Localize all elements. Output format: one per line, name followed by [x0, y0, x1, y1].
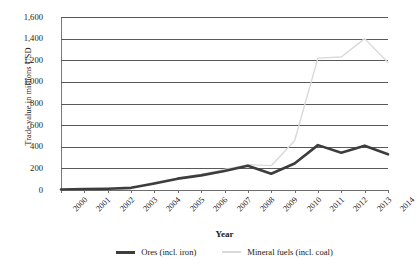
- x-tick-label: 2008: [259, 196, 277, 214]
- y-tick-label: 0: [3, 186, 43, 195]
- x-tick-label: 2003: [142, 196, 160, 214]
- x-tick-label: 2014: [399, 196, 417, 214]
- x-tick-label: 2007: [235, 196, 253, 214]
- series-lines: [61, 17, 388, 190]
- x-tick-mark: [178, 190, 179, 193]
- y-tick-label: 1,400: [3, 34, 43, 43]
- y-tick-label: 200: [3, 164, 43, 173]
- x-tick-mark: [108, 190, 109, 193]
- x-tick-mark: [365, 190, 366, 193]
- x-tick-label: 2000: [72, 196, 90, 214]
- y-tick-label: 1,200: [3, 56, 43, 65]
- x-tick-mark: [341, 190, 342, 193]
- x-tick-label: 2001: [95, 196, 113, 214]
- x-axis-title: Year: [61, 229, 388, 239]
- x-tick-label: 2005: [189, 196, 207, 214]
- x-tick-label: 2006: [212, 196, 230, 214]
- series-line: [61, 145, 388, 189]
- y-tick-label: 400: [3, 142, 43, 151]
- legend-label: Mineral fuels (incl. coal): [247, 247, 332, 257]
- x-tick-mark: [154, 190, 155, 193]
- x-tick-mark: [131, 190, 132, 193]
- x-tick-label: 2011: [329, 196, 347, 214]
- legend-label: Ores (incl. iron): [141, 247, 196, 257]
- x-tick-mark: [271, 190, 272, 193]
- x-tick-mark: [318, 190, 319, 193]
- x-tick-mark: [388, 190, 389, 193]
- x-tick-label: 2010: [305, 196, 323, 214]
- y-tick-label: 800: [3, 99, 43, 108]
- legend-item[interactable]: Ores (incl. iron): [116, 247, 196, 257]
- x-tick-mark: [201, 190, 202, 193]
- y-tick-label: 1,600: [3, 13, 43, 22]
- x-tick-label: 2012: [352, 196, 370, 214]
- x-tick-label: 2009: [282, 196, 300, 214]
- x-tick-label: 2013: [376, 196, 394, 214]
- legend-swatch-icon: [116, 251, 135, 254]
- x-tick-mark: [225, 190, 226, 193]
- y-tick-label: 1,000: [3, 77, 43, 86]
- x-tick-label: 2004: [165, 196, 183, 214]
- x-tick-mark: [248, 190, 249, 193]
- x-tick-mark: [295, 190, 296, 193]
- series-line: [61, 39, 388, 190]
- x-tick-mark: [84, 190, 85, 193]
- legend-swatch-icon: [222, 251, 241, 252]
- x-tick-label: 2002: [119, 196, 137, 214]
- plot-area: 1,6001,4001,2001,0008006004002000 200020…: [61, 17, 388, 190]
- y-tick-label: 600: [3, 121, 43, 130]
- legend-item[interactable]: Mineral fuels (incl. coal): [222, 247, 332, 257]
- chart-legend: Ores (incl. iron)Mineral fuels (incl. co…: [61, 247, 388, 257]
